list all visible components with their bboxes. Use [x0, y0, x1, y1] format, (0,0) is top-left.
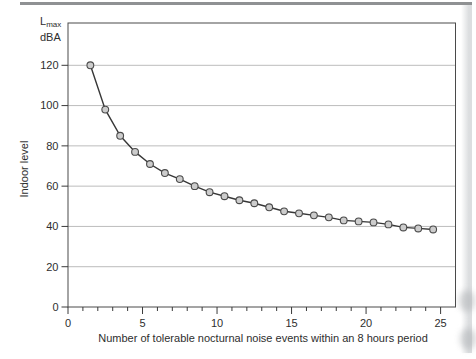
x-tick-label: 0 [65, 317, 71, 329]
data-point [355, 218, 362, 225]
data-point [385, 221, 392, 228]
x-axis-ticks [68, 307, 441, 314]
data-point [400, 224, 407, 231]
y-tick-label: 120 [40, 59, 58, 71]
series-group [87, 62, 437, 233]
data-point [87, 62, 94, 69]
data-point [206, 189, 213, 196]
data-point [161, 170, 168, 177]
data-point [117, 132, 124, 139]
data-point [221, 193, 228, 200]
data-point [430, 226, 437, 233]
x-axis-title: Number of tolerable nocturnal noise even… [68, 332, 458, 344]
data-point [281, 208, 288, 215]
y-tick-label: 80 [46, 140, 58, 152]
y-tick-label: 60 [46, 180, 58, 192]
data-point [266, 204, 273, 211]
y-unit-label: Lmax dBA [40, 15, 61, 43]
data-point [415, 225, 422, 232]
y-axis-title: Indoor level [18, 119, 30, 219]
data-point [147, 161, 154, 168]
x-tick-labels: 0510152025 [65, 317, 447, 329]
data-point [132, 149, 139, 156]
data-point [311, 212, 318, 219]
y-tick-label: 40 [46, 220, 58, 232]
data-point [236, 197, 243, 204]
y-axis-ticks [62, 65, 69, 307]
x-tick-label: 5 [139, 317, 145, 329]
x-tick-label: 15 [285, 317, 297, 329]
y-tick-label: 0 [52, 301, 58, 313]
x-tick-label: 20 [360, 317, 372, 329]
data-point [191, 183, 198, 190]
data-point [176, 176, 183, 183]
y-tick-label: 100 [40, 99, 58, 111]
lmax-label: Lmax [40, 15, 61, 31]
y-tick-labels: 020406080100120 [40, 59, 58, 313]
x-tick-label: 25 [434, 317, 446, 329]
series-line [90, 65, 433, 229]
data-point [340, 217, 347, 224]
grid-group [68, 65, 456, 266]
data-point [102, 106, 109, 113]
data-point [325, 214, 332, 221]
y-tick-label: 20 [46, 261, 58, 273]
x-tick-label: 10 [211, 317, 223, 329]
lmax-sub: max [46, 20, 61, 29]
data-point [370, 219, 377, 226]
dba-label: dBA [40, 31, 61, 43]
data-point [251, 200, 258, 207]
data-point [296, 210, 303, 217]
